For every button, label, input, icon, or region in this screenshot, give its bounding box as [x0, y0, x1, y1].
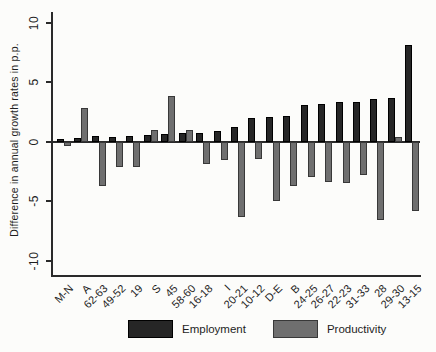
- x-tick-label-text: D-E: [262, 282, 284, 304]
- bar-productivity-10-12: [255, 142, 262, 159]
- bar-employment-49-52: [109, 137, 116, 142]
- y-tick-label-text: -10: [27, 251, 41, 270]
- bar-employment-58-60: [179, 133, 186, 141]
- bar-employment-45: [161, 134, 168, 142]
- bar-productivity-49-52: [116, 142, 123, 167]
- bar-employment-26-27: [318, 104, 325, 142]
- y-axis-title-text: Difference in annual growth rates in p.p…: [8, 43, 20, 237]
- legend-entry-productivity: Productivity: [273, 320, 386, 338]
- legend-label-productivity: Productivity: [327, 323, 386, 335]
- y-axis-line: [51, 12, 53, 277]
- bar-employment-22-23: [336, 102, 343, 141]
- bar-productivity-S: [151, 130, 158, 142]
- bar-productivity-13-15: [412, 142, 419, 211]
- bar-employment-20-21: [231, 127, 238, 141]
- bar-productivity-29-30: [395, 137, 402, 142]
- bar-productivity-26-27: [325, 142, 332, 182]
- employment-swatch: [128, 320, 173, 338]
- bar-employment-16-18: [196, 133, 203, 142]
- bar-productivity-M-N: [64, 142, 71, 146]
- y-tick-label-text: 0: [27, 138, 41, 145]
- bar-productivity-62-63: [99, 142, 106, 186]
- y-tick-label-text: -5: [27, 195, 41, 207]
- bar-employment-19: [126, 136, 133, 141]
- bar-productivity-16-18: [203, 142, 210, 165]
- bar-employment-62-63: [92, 136, 99, 141]
- legend: Employment Productivity: [128, 320, 386, 338]
- bar-employment-10-12: [248, 118, 255, 142]
- x-tick-label-text: 19: [128, 282, 145, 299]
- x-tick-label-text: S: [149, 282, 163, 296]
- productivity-swatch: [273, 320, 318, 338]
- y-tick-mark--5: [46, 200, 51, 202]
- bar-chart-figure: Difference in annual growth rates in p.p…: [0, 0, 436, 352]
- bar-productivity-28: [377, 142, 384, 221]
- y-tick-mark-0: [46, 141, 51, 143]
- bar-productivity-A: [81, 108, 88, 141]
- bar-productivity-19: [133, 142, 140, 167]
- x-tick-label-text: M-N: [52, 282, 75, 305]
- legend-entry-employment: Employment: [128, 320, 246, 338]
- bar-employment-S: [144, 135, 151, 142]
- bar-employment-13-15: [405, 45, 412, 141]
- bar-productivity-20-21: [238, 142, 245, 217]
- bar-productivity-45: [168, 96, 175, 142]
- bar-productivity-31-33: [360, 142, 367, 175]
- y-tick-mark--10: [46, 260, 51, 262]
- bar-employment-31-33: [353, 102, 360, 142]
- bar-productivity-D-E: [273, 142, 280, 202]
- bar-employment-A: [74, 138, 81, 142]
- bar-productivity-I: [221, 142, 228, 160]
- bar-employment-B: [283, 116, 290, 142]
- y-tick-label-text: 5: [27, 79, 41, 86]
- bar-productivity-22-23: [343, 142, 350, 184]
- bar-productivity-B: [290, 142, 297, 186]
- x-axis-line: [51, 275, 421, 277]
- bar-employment-29-30: [388, 98, 395, 142]
- y-tick-label-text: 10: [27, 16, 41, 30]
- y-tick-mark-5: [46, 81, 51, 83]
- bar-productivity-24-25: [308, 142, 315, 177]
- y-tick-mark-10: [46, 22, 51, 24]
- bar-employment-M-N: [57, 139, 64, 141]
- bar-employment-24-25: [301, 105, 308, 141]
- bar-employment-28: [370, 99, 377, 142]
- bar-employment-I: [214, 131, 221, 142]
- bar-employment-D-E: [266, 117, 273, 142]
- legend-label-employment: Employment: [182, 323, 246, 335]
- bar-productivity-58-60: [186, 130, 193, 141]
